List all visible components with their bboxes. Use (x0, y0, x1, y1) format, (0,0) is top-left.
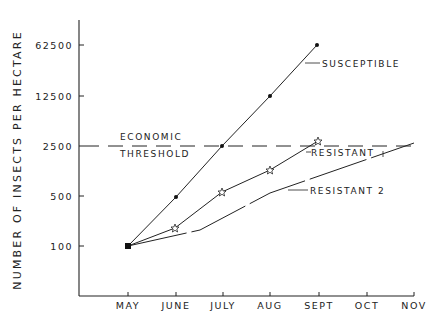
y-tick-2500: 2500 (43, 141, 73, 152)
threshold-label-line2: THRESHOLD (119, 149, 190, 159)
x-ticks (128, 292, 414, 296)
label-resistant-1: RESISTANT (311, 148, 375, 158)
y-ticks (79, 45, 84, 246)
x-tick-june: JUNE (161, 300, 191, 311)
y-tick-labels: 62500 12500 2500 500 100 (35, 40, 73, 252)
x-tick-oct: OCT (355, 300, 379, 311)
insect-chart: 62500 12500 2500 500 100 NUMBER OF INSEC… (0, 0, 431, 320)
x-tick-may: MAY (116, 300, 140, 311)
y-tick-12500: 12500 (35, 91, 73, 102)
label-resistant-2: RESISTANT 2 (310, 186, 385, 196)
y-tick-500: 500 (50, 191, 73, 202)
start-marker (125, 243, 131, 249)
label-susceptible: SUSCEPTIBLE (322, 59, 400, 69)
y-tick-62500: 62500 (35, 40, 73, 51)
y-tick-100: 100 (50, 241, 73, 252)
threshold-label-line1: ECONOMIC (120, 132, 182, 142)
y-axis-label: NUMBER OF INSECTS PER HECTARE (11, 30, 24, 290)
series-susceptible: SUSCEPTIBLE (128, 43, 400, 246)
x-tick-nov: NOV (401, 300, 426, 311)
x-tick-labels: MAY JUNE JULY AUG SEPT OCT NOV (116, 300, 427, 311)
star-marker (218, 188, 226, 196)
star-marker (266, 166, 274, 174)
star-marker (314, 137, 322, 145)
star-marker (171, 224, 179, 232)
x-tick-july: JULY (209, 300, 236, 311)
x-tick-aug: AUG (257, 300, 282, 311)
x-tick-sept: SEPT (304, 300, 334, 311)
